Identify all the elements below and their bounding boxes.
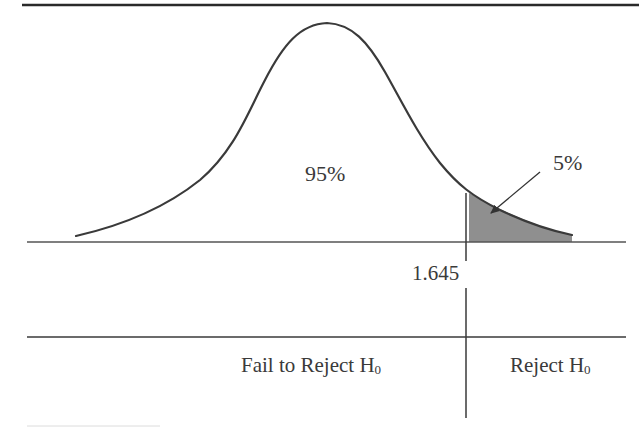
central-area-label: 95% [305,163,345,185]
fail-to-reject-text: Fail to Reject H [241,353,375,377]
fail-to-reject-subscript: 0 [375,362,382,377]
reject-region-label: Reject H0 [510,355,591,376]
fail-to-reject-region-label: Fail to Reject H0 [241,355,381,376]
critical-value-label: 1.645 [412,263,459,284]
reject-subscript: 0 [584,362,591,377]
reject-text: Reject H [510,353,584,377]
rejection-tail-shading [469,193,572,242]
bell-curve [76,23,572,236]
tail-arrow-icon [491,172,540,213]
tail-area-label: 5% [553,152,582,174]
